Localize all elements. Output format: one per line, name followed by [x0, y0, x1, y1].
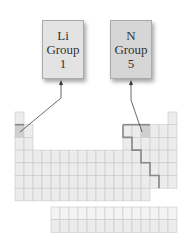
element-cell	[168, 137, 177, 150]
element-cell	[42, 163, 51, 176]
element-cell	[159, 176, 168, 189]
element-cell	[123, 176, 132, 189]
element-cell	[42, 150, 51, 163]
f-block-cell	[105, 207, 114, 220]
element-cell	[114, 176, 123, 189]
element-cell	[15, 150, 24, 163]
element-cell	[105, 150, 114, 163]
f-block-cell	[159, 220, 168, 233]
element-cell	[123, 188, 132, 201]
element-cell	[123, 137, 132, 150]
element-cell	[132, 125, 141, 138]
nitrogen-arrow-head	[129, 80, 133, 85]
element-cell	[69, 188, 78, 201]
f-block-cell	[132, 207, 141, 220]
element-cell	[141, 150, 150, 163]
element-cell	[114, 163, 123, 176]
element-cell	[87, 188, 96, 201]
f-block-cell	[51, 207, 60, 220]
element-cell	[15, 125, 24, 138]
element-cell	[33, 176, 42, 189]
element-cell	[141, 137, 150, 150]
element-cell	[15, 112, 24, 125]
element-cell	[96, 176, 105, 189]
element-cell	[105, 188, 114, 201]
element-cell	[132, 163, 141, 176]
element-cell	[141, 125, 150, 138]
element-cell	[33, 150, 42, 163]
element-cell	[78, 163, 87, 176]
f-block-cell	[168, 207, 177, 220]
element-cell	[159, 137, 168, 150]
element-cell	[69, 150, 78, 163]
f-block-cell	[132, 220, 141, 233]
element-cell	[141, 176, 150, 189]
element-cell	[132, 176, 141, 189]
f-block-cell	[141, 207, 150, 220]
f-block-cell	[150, 220, 159, 233]
element-cell	[150, 137, 159, 150]
element-cell	[159, 163, 168, 176]
element-cell	[60, 163, 69, 176]
element-cell	[15, 176, 24, 189]
f-block-cell	[87, 207, 96, 220]
element-cell	[150, 163, 159, 176]
f-block-cell	[159, 207, 168, 220]
element-cell	[150, 150, 159, 163]
element-cell	[60, 176, 69, 189]
element-cell	[42, 176, 51, 189]
f-block-cell	[51, 220, 60, 233]
element-cell	[87, 150, 96, 163]
element-cell	[69, 176, 78, 189]
f-block-cell	[87, 220, 96, 233]
element-cell	[51, 163, 60, 176]
element-cell	[168, 125, 177, 138]
element-cell	[123, 163, 132, 176]
element-cell	[51, 176, 60, 189]
f-block-cell	[69, 207, 78, 220]
element-cell	[24, 150, 33, 163]
f-block-cell	[60, 207, 69, 220]
element-cell	[15, 188, 24, 201]
element-cell	[141, 188, 150, 201]
element-cell	[69, 163, 78, 176]
element-cell	[96, 163, 105, 176]
element-cell	[168, 150, 177, 163]
element-cell	[168, 163, 177, 176]
element-cell	[78, 150, 87, 163]
element-cell	[15, 163, 24, 176]
element-cell	[168, 176, 177, 189]
f-block-cell	[114, 220, 123, 233]
element-cell	[96, 150, 105, 163]
element-cell	[96, 188, 105, 201]
f-block-cell	[78, 207, 87, 220]
lithium-arrow-head	[59, 80, 63, 85]
element-cell	[24, 188, 33, 201]
element-cell	[24, 176, 33, 189]
element-cell	[105, 176, 114, 189]
f-block-cell	[141, 220, 150, 233]
element-cell	[24, 125, 33, 138]
element-cell	[141, 163, 150, 176]
element-cell	[87, 163, 96, 176]
element-cell	[132, 137, 141, 150]
element-cell	[60, 188, 69, 201]
element-cell	[24, 137, 33, 150]
f-block-cell	[60, 220, 69, 233]
f-block-cell	[96, 220, 105, 233]
element-cell	[60, 150, 69, 163]
element-cell	[159, 125, 168, 138]
element-cell	[114, 150, 123, 163]
element-cell	[123, 150, 132, 163]
element-cell	[114, 188, 123, 201]
element-cell	[123, 125, 132, 138]
element-cell	[132, 188, 141, 201]
element-cell	[33, 188, 42, 201]
f-block-cell	[78, 220, 87, 233]
element-cell	[42, 188, 51, 201]
f-block-cell	[168, 220, 177, 233]
f-block-cell	[150, 207, 159, 220]
element-cell	[87, 176, 96, 189]
element-cell	[132, 150, 141, 163]
element-cell	[150, 125, 159, 138]
